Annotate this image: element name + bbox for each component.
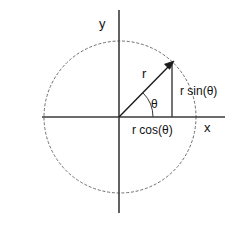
trigonometry-figure: y x r θ r sin(θ) r cos(θ) — [0, 0, 235, 233]
radius-label: r — [142, 67, 146, 80]
x-axis-label: x — [204, 121, 211, 134]
r-cos-theta-label: r cos(θ) — [132, 124, 173, 136]
y-axis-label: y — [99, 17, 106, 30]
angle-theta-label: θ — [151, 98, 158, 110]
r-sin-theta-label: r sin(θ) — [180, 85, 217, 97]
figure-canvas — [0, 0, 235, 233]
